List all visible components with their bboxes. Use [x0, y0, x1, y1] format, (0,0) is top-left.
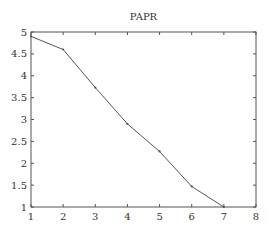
y-tick-label: 4.5 — [11, 48, 27, 59]
x-tick-label: 2 — [60, 211, 66, 222]
y-tick-label: 4 — [21, 70, 27, 81]
chart-title: PAPR — [130, 11, 158, 22]
x-tick-label: 8 — [253, 211, 259, 222]
papr-line-chart: PAPR 12345678 11.522.533.544.55 — [0, 0, 270, 235]
y-tick-label: 1.5 — [11, 180, 27, 191]
x-tick-label: 4 — [124, 211, 130, 222]
y-tick-label: 3 — [21, 114, 27, 125]
data-point-marker — [223, 206, 225, 208]
data-series — [30, 35, 225, 208]
x-axis: 12345678 — [28, 32, 259, 222]
plot-frame — [31, 32, 256, 207]
data-point-marker — [62, 48, 64, 50]
data-point-marker — [30, 35, 32, 37]
x-tick-label: 6 — [189, 211, 195, 222]
data-point-marker — [191, 185, 193, 187]
y-tick-label: 3.5 — [11, 92, 27, 103]
plot-area — [31, 32, 256, 207]
x-tick-label: 7 — [221, 211, 227, 222]
x-tick-label: 3 — [92, 211, 98, 222]
data-point-marker — [158, 150, 160, 152]
y-tick-label: 1 — [21, 202, 27, 213]
data-point-marker — [126, 123, 128, 125]
x-tick-label: 5 — [156, 211, 162, 222]
y-tick-label: 2 — [21, 158, 27, 169]
data-point-marker — [94, 86, 96, 88]
series-line — [31, 36, 224, 207]
y-tick-label: 2.5 — [11, 136, 27, 147]
y-tick-label: 5 — [21, 27, 27, 38]
y-axis: 11.522.533.544.55 — [11, 27, 256, 213]
x-tick-label: 1 — [28, 211, 34, 222]
